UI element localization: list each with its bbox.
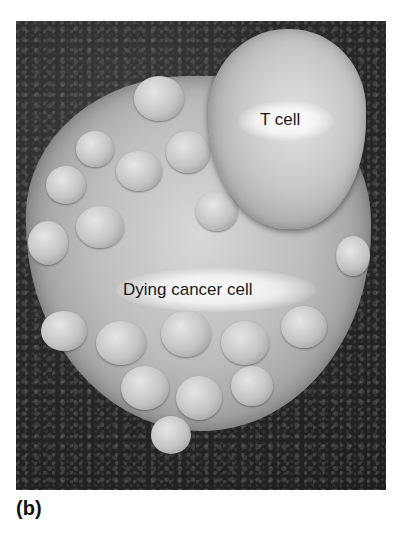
bleb — [116, 151, 162, 191]
bleb — [231, 366, 273, 406]
bleb — [166, 131, 210, 173]
bleb — [76, 131, 114, 167]
bleb — [336, 236, 370, 276]
bleb — [151, 416, 191, 454]
bleb — [281, 306, 327, 348]
bleb — [121, 366, 169, 410]
bleb — [161, 311, 211, 357]
bleb — [176, 376, 222, 420]
micrograph-image: T cell Dying cancer cell — [16, 21, 386, 490]
cancer-cell-label: Dying cancer cell — [123, 280, 252, 300]
bleb — [28, 221, 68, 265]
bleb — [76, 206, 124, 248]
t-cell-label: T cell — [260, 110, 300, 130]
panel-label: (b) — [16, 497, 42, 520]
bleb — [221, 321, 269, 365]
bleb — [134, 76, 184, 121]
bleb — [96, 321, 146, 365]
bleb — [41, 311, 87, 351]
bleb — [46, 166, 86, 204]
